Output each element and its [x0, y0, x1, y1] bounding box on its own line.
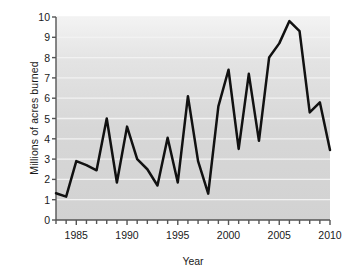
- plot-canvas: [0, 0, 355, 279]
- x-axis-ticks: [56, 220, 330, 225]
- chart-figure: Millions of acres burned Year 0123456789…: [0, 0, 355, 279]
